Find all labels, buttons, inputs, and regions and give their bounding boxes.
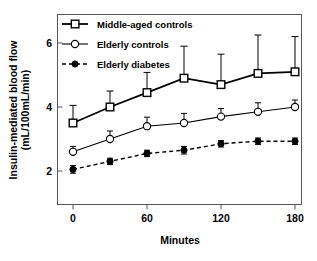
plot-frame [58,15,302,205]
legend-item-elderly-diabetes[interactable]: Elderly diabetes [62,59,170,70]
x-tick-label-120: 120 [212,212,230,224]
y-axis-title-line1: Insulin-mediated blood flow [7,40,19,180]
x-axis-ticks [73,205,295,210]
legend-item-elderly-controls[interactable]: Elderly controls [62,39,169,50]
x-tick-label-0: 0 [70,212,76,224]
y-axis-ticks [58,43,63,171]
chart-figure: 6 4 2 0 60 120 180 Minutes Insulin-media… [0,0,317,261]
y-axis-title-line2: (mL/100mL/min) [19,70,31,151]
chart-legend: Middle-aged controls Elderly controls El… [62,19,193,70]
legend-label-middle-aged-controls: Middle-aged controls [97,19,193,30]
series-elderly-diabetes [70,138,298,173]
y-tick-label-2: 2 [46,165,52,177]
legend-label-elderly-controls: Elderly controls [97,39,169,50]
markers-elderly-diabetes [70,138,298,172]
x-tick-label-180: 180 [286,212,304,224]
y-tick-label-4: 4 [46,101,52,113]
legend-item-middle-aged-controls[interactable]: Middle-aged controls [62,19,193,30]
series-line-elderly-diabetes [73,141,295,169]
x-tick-label-60: 60 [141,212,153,224]
legend-marker-open-circle [71,40,78,47]
x-axis-title: Minutes [160,234,200,246]
y-tick-label-6: 6 [46,37,52,49]
error-bars-elderly-diabetes [70,138,298,173]
line-chart: 6 4 2 0 60 120 180 Minutes Insulin-media… [0,0,317,261]
legend-marker-open-square [71,20,79,28]
legend-marker-filled-circle [72,61,78,67]
legend-label-elderly-diabetes: Elderly diabetes [97,59,170,70]
